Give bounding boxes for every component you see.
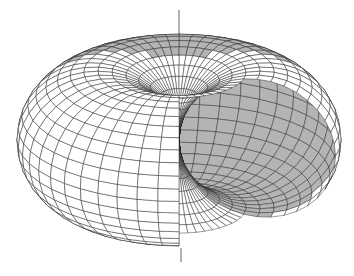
torus-wireframe [17,10,341,262]
torus-svg [0,0,354,276]
torus-diagram [0,0,354,276]
